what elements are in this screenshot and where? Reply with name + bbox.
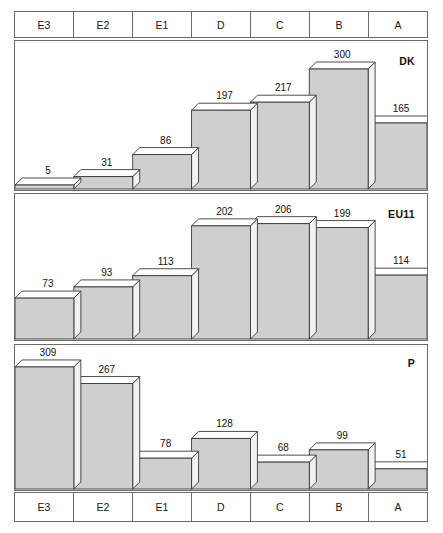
category-cell-bottom-e3: E3 [15,493,74,521]
value-label-dk-b: 300 [334,49,351,60]
bar-front-face [15,367,74,489]
bar-top-face [192,103,258,110]
bar-eu11-d [192,219,258,339]
bar-side-face [133,280,140,339]
value-label-p-e3: 309 [40,347,57,358]
category-cell-top-a: A [369,12,427,37]
bar-top-face [192,431,258,438]
value-label-p-e1: 78 [160,438,171,449]
value-label-eu11-e2: 93 [101,267,112,278]
value-label-eu11-b: 199 [334,208,351,219]
panel-label-dk: DK [399,55,415,67]
value-label-eu11-c: 206 [275,204,292,215]
value-label-eu11-d: 202 [216,206,233,217]
bar-front-face [250,462,309,489]
bar-front-face [368,469,427,489]
bar-p-d [192,431,258,489]
bar-dk-e1 [133,148,199,189]
bar-top-face [309,62,375,69]
bar-top-face [250,95,316,102]
bar-eu11-c [250,217,316,339]
category-cell-bottom-e1: E1 [133,493,192,521]
bar-front-face [309,228,368,339]
bar-front-face [133,458,192,489]
bar-side-face [250,431,257,489]
bar-top-face [368,268,427,275]
value-label-p-c: 68 [278,442,289,453]
bar-side-face [309,95,316,189]
bar-front-face [250,102,309,189]
bar-top-face [74,280,140,287]
bar-top-face [368,116,427,123]
value-label-p-d: 128 [216,418,233,429]
value-label-dk-c: 217 [275,82,292,93]
category-cell-bottom-e2: E2 [74,493,133,521]
bar-front-face [192,438,251,489]
plot-area-dk: 53186197217300165 [15,41,427,190]
category-cell-bottom-c: C [251,493,310,521]
category-cell-top-e3: E3 [15,12,74,37]
bar-top-face [74,377,140,384]
value-label-p-e2: 267 [98,364,115,375]
category-cell-top-d: D [192,12,251,37]
bar-side-face [250,103,257,189]
bar-top-face [74,170,140,177]
bar-front-face [74,177,133,189]
bar-top-face [15,291,81,298]
category-header-bottom: E3E2E1DCBA [14,492,428,522]
bar-front-face [15,185,74,189]
category-cell-top-b: B [310,12,369,37]
value-label-dk-e3: 5 [45,165,51,176]
category-cell-bottom-d: D [192,493,251,521]
bar-dk-d [192,103,258,189]
bar-dk-c [250,95,316,189]
value-label-dk-a: 165 [393,103,410,114]
value-label-dk-e1: 86 [160,135,171,146]
value-label-eu11-e1: 113 [158,256,174,267]
bar-p-e3 [15,360,81,489]
bar-eu11-e2 [74,280,140,339]
bar-top-face [15,178,81,185]
bar-front-face [368,275,427,339]
bar-side-face [192,269,199,339]
bar-p-e1 [133,451,199,489]
bars-dk [15,41,427,190]
bar-side-face [250,219,257,339]
category-cell-bottom-b: B [310,493,369,521]
chart-panel-p: 30926778128689951 P [14,344,428,491]
bar-front-face [74,287,133,339]
bar-top-face [250,217,316,224]
bar-p-b [309,443,375,489]
bar-top-face [368,462,427,469]
bar-p-a [368,462,427,489]
bar-front-face [309,450,368,489]
bar-side-face [74,291,81,339]
bar-dk-b [309,62,375,189]
category-header-top: E3E2E1DCBA [14,11,428,38]
bar-eu11-e3 [15,291,81,339]
bar-front-face [250,224,309,339]
bar-top-face [133,451,199,458]
bar-top-face [309,221,375,228]
plot-area-p: 30926778128689951 [15,345,427,490]
bar-front-face [15,298,74,339]
bar-dk-e3 [15,178,81,189]
bar-top-face [192,219,258,226]
value-label-p-b: 99 [337,430,348,441]
bar-top-face [15,360,81,367]
category-cell-top-e2: E2 [74,12,133,37]
bar-eu11-b [309,221,375,339]
bar-front-face [309,69,368,189]
bar-front-face [133,276,192,339]
bar-side-face [368,221,375,339]
category-cell-bottom-a: A [369,493,427,521]
bar-front-face [133,155,192,189]
bar-side-face [133,377,140,489]
value-label-dk-d: 197 [216,90,233,101]
bar-front-face [368,123,427,189]
bar-front-face [74,384,133,489]
value-label-eu11-e3: 73 [42,278,53,289]
bar-dk-a [368,116,427,189]
bar-top-face [250,455,316,462]
bar-side-face [368,443,375,489]
